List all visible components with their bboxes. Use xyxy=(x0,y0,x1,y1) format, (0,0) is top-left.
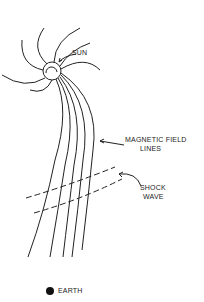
spiral-arm xyxy=(38,28,47,64)
sun-label: SUN xyxy=(72,49,87,57)
spiral-arm xyxy=(61,62,100,70)
magnetic-field-line xyxy=(28,79,63,257)
sun-rotation-arrow xyxy=(46,67,57,73)
spiral-arm xyxy=(30,80,52,91)
shock-wave-label-line2: WAVE xyxy=(143,193,164,201)
magnetic-field-label-line1: MAGNETIC FIELD xyxy=(125,136,187,144)
shock-wave-label-line1: SHOCK xyxy=(140,184,166,192)
spiral-arm xyxy=(2,75,45,83)
diagram-canvas xyxy=(0,0,204,302)
earth-icon xyxy=(46,287,54,295)
earth-label: EARTH xyxy=(58,287,83,295)
magnetic-field-label-line2: LINES xyxy=(140,145,161,153)
shock-pointer-arrow xyxy=(119,174,141,186)
